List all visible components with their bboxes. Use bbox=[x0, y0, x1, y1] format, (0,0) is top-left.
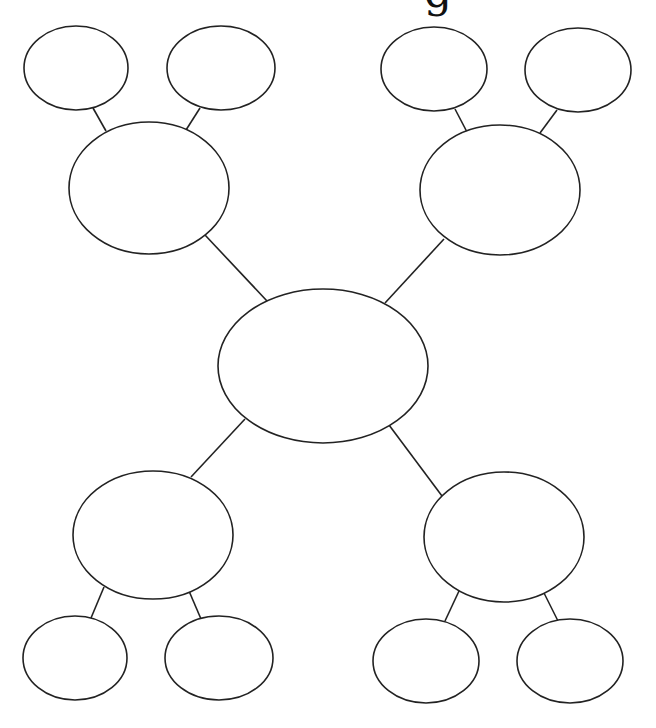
connector-line bbox=[540, 110, 557, 133]
bubble-leaf-bl-1 bbox=[23, 616, 127, 700]
bubble-leaf-br-1 bbox=[373, 619, 479, 703]
connector-line bbox=[186, 108, 200, 130]
bubble-leaf-br-2 bbox=[517, 619, 623, 703]
bubble-branch-top-right bbox=[420, 125, 580, 255]
connector-line bbox=[91, 587, 104, 618]
mind-map-canvas bbox=[0, 0, 656, 728]
bubble-leaf-tl-2 bbox=[167, 26, 275, 110]
bubble-leaf-tr-1 bbox=[381, 27, 487, 111]
bubble-branch-top-left bbox=[69, 122, 229, 254]
bubble-nodes bbox=[23, 26, 631, 703]
connector-line bbox=[445, 591, 459, 621]
connector-line bbox=[455, 109, 467, 132]
bubble-leaf-tl-1 bbox=[24, 26, 128, 110]
bubble-branch-bottom-right bbox=[424, 472, 584, 602]
connector-line bbox=[385, 239, 444, 303]
connector-line bbox=[93, 108, 106, 131]
connector-line bbox=[189, 591, 201, 619]
connector-line bbox=[544, 593, 558, 621]
bubble-branch-bottom-left bbox=[73, 471, 233, 599]
connector-line bbox=[389, 425, 442, 496]
bubble-leaf-bl-2 bbox=[165, 616, 273, 700]
connector-line bbox=[191, 419, 245, 477]
bubble-leaf-tr-2 bbox=[525, 28, 631, 112]
bubble-center bbox=[218, 289, 428, 443]
connector-line bbox=[205, 235, 267, 301]
